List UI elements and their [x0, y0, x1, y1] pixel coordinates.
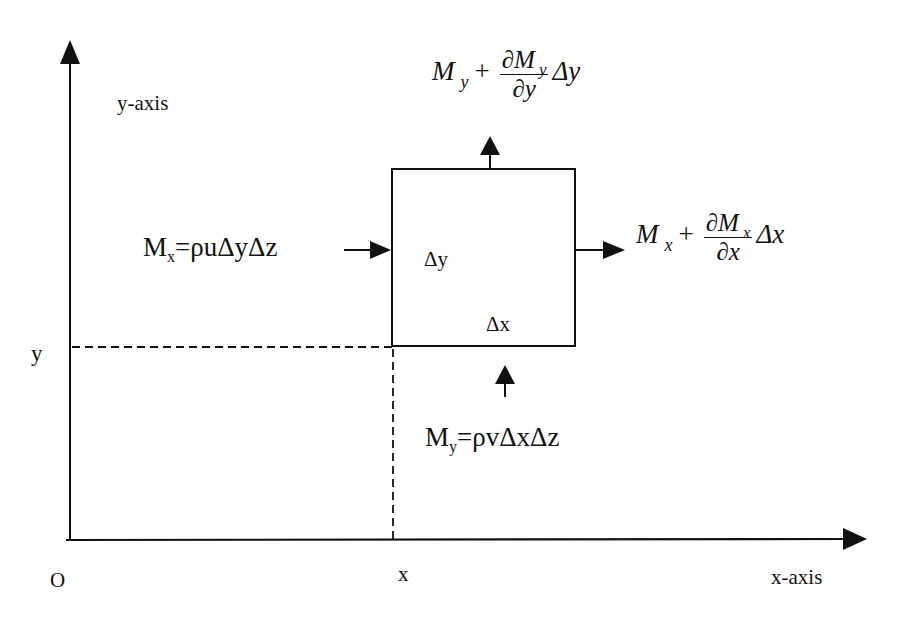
outflow-y-subscript: y: [461, 72, 469, 92]
outflow-x-equation: Mx+∂Mx∂xΔx: [636, 210, 784, 264]
inflow-x-symbol: M: [143, 232, 167, 262]
dx-label: Δx: [486, 314, 510, 335]
y-axis-label: y-axis: [117, 93, 168, 114]
x-axis-label: x-axis: [771, 567, 822, 588]
x-axis: [66, 528, 867, 550]
outflow-x-subscript: x: [665, 235, 673, 255]
inflow-y-expression: =ρvΔxΔz: [457, 422, 559, 452]
y-axis: [60, 40, 80, 541]
outflow-x-symbol: M: [636, 219, 659, 249]
outflow-x-trailing: Δx: [756, 219, 784, 249]
x-axis-arrowhead-icon: [843, 528, 867, 550]
outflow-x-fraction: ∂Mx∂x: [704, 210, 753, 264]
inflow-x-expression: =ρuΔyΔz: [175, 232, 277, 262]
outflow-y-numerator-subscript: y: [539, 60, 547, 79]
outflow-y-fraction: ∂My∂y: [500, 47, 549, 101]
inflow-y-subscript: y: [449, 438, 457, 455]
inflow-y-equation: My=ρvΔxΔz: [425, 424, 559, 451]
origin-label: O: [50, 570, 65, 591]
y-axis-arrowhead-icon: [60, 40, 80, 64]
y-position-label: y: [31, 342, 43, 365]
control-volume-box: [392, 169, 575, 346]
outflow-y-symbol: M: [432, 56, 455, 86]
outflow-x-numerator: ∂M: [706, 209, 739, 236]
outflow-y-equation: My+∂My∂yΔy: [432, 47, 580, 101]
outflow-y-plus: +: [475, 56, 490, 86]
inflow-x-subscript: x: [167, 248, 175, 265]
outflow-y-numerator: ∂M: [502, 46, 535, 73]
x-position-label: x: [398, 564, 409, 585]
outflow-x-arrow-icon: [575, 241, 625, 259]
outflow-y-arrow-icon: [480, 136, 500, 169]
outflow-x-plus: +: [679, 219, 694, 249]
inflow-y-symbol: M: [425, 422, 449, 452]
inflow-x-equation: Mx=ρuΔyΔz: [143, 234, 277, 261]
inflow-x-arrow-icon: [344, 241, 391, 259]
outflow-y-trailing: Δy: [552, 56, 580, 86]
dy-label: Δy: [424, 249, 448, 270]
outflow-x-numerator-subscript: x: [743, 223, 751, 242]
inflow-y-arrow-icon: [495, 365, 515, 397]
